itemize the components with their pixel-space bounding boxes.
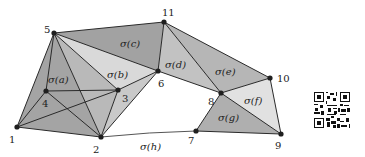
vertex-label: 3 <box>122 93 128 104</box>
simplex-label: σ(c) <box>120 38 140 49</box>
vertex-dot <box>43 88 48 93</box>
curve-h <box>101 131 196 137</box>
vertex-dot <box>115 87 120 92</box>
vertex-label: 5 <box>44 24 50 35</box>
simplex-label: σ(h) <box>140 141 161 152</box>
vertex-5: 5 <box>44 24 57 36</box>
vertex-label: 8 <box>208 96 214 107</box>
vertex-1: 1 <box>9 124 20 145</box>
vertex-dot <box>161 19 166 24</box>
vertex-2: 2 <box>93 134 104 155</box>
vertex-label: 7 <box>188 135 194 146</box>
vertex-dot <box>193 128 198 133</box>
vertex-9: 9 <box>275 131 284 151</box>
vertex-dot <box>218 90 223 95</box>
vertex-label: 6 <box>158 78 164 89</box>
vertex-dot <box>98 134 103 139</box>
vertex-dot <box>14 124 19 129</box>
vertex-dot <box>155 68 160 73</box>
simplex-label: σ(e) <box>215 66 236 77</box>
qr-code-icon <box>314 92 350 128</box>
vertex-label: 2 <box>93 144 99 155</box>
vertex-label: 11 <box>162 7 175 18</box>
vertex-label: 1 <box>9 134 15 145</box>
vertex-dot <box>267 75 272 80</box>
simplex-label: σ(a) <box>48 74 69 85</box>
simplex-label: σ(g) <box>218 112 239 123</box>
vertex-label: 10 <box>277 73 290 84</box>
vertex-dot <box>51 30 56 35</box>
diagram-canvas: 1234567891011 σ(a)σ(b)σ(c)σ(d)σ(e)σ(f)σ(… <box>0 0 365 157</box>
simplex-label: σ(b) <box>107 69 128 80</box>
simplex-label: σ(d) <box>165 59 186 70</box>
simplex-label: σ(f) <box>244 95 262 106</box>
vertex-label: 9 <box>275 140 281 151</box>
vertex-11: 11 <box>161 7 174 25</box>
vertex-dot <box>278 131 283 136</box>
simplicial-complex-diagram: 1234567891011 σ(a)σ(b)σ(c)σ(d)σ(e)σ(f)σ(… <box>0 0 365 157</box>
vertex-label: 4 <box>42 98 48 109</box>
